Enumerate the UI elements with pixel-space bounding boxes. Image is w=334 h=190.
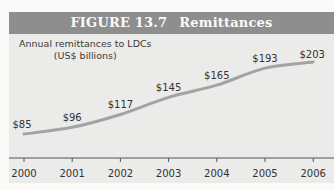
x-tick-label: 2002 — [108, 168, 133, 179]
line-chart: 2000200120022003200420052006$85$96$117$1… — [0, 0, 334, 190]
data-label: $203 — [299, 49, 324, 60]
x-tick-label: 2004 — [204, 168, 229, 179]
data-label: $193 — [252, 53, 277, 64]
data-label: $85 — [12, 119, 31, 130]
x-tick-label: 2006 — [300, 168, 325, 179]
data-label: $117 — [108, 99, 133, 110]
x-tick-label: 2000 — [11, 168, 36, 179]
x-tick-label: 2005 — [252, 168, 277, 179]
x-tick-label: 2003 — [156, 168, 181, 179]
x-tick-label: 2001 — [59, 168, 84, 179]
data-label: $96 — [63, 112, 82, 123]
data-label: $145 — [156, 82, 181, 93]
data-label: $165 — [204, 70, 229, 81]
